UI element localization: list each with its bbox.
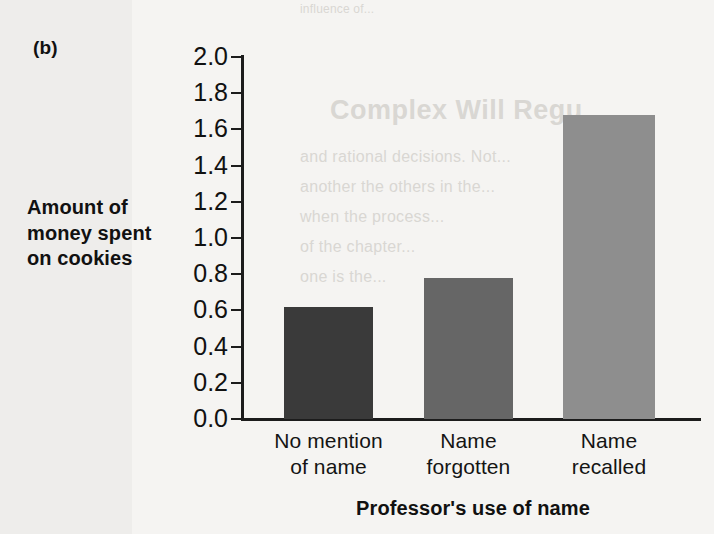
bar-2: [424, 278, 513, 419]
panel-label: (b): [33, 37, 58, 59]
y-tick-label-1.2: 1.2: [168, 189, 228, 214]
y-tick-1.6: [231, 128, 242, 130]
plot-area: [243, 57, 698, 419]
y-tick-0.6: [231, 309, 242, 311]
bar-3: [563, 115, 655, 419]
ghost-top-line: influence of...: [300, 2, 374, 16]
y-tick-0.4: [231, 346, 242, 348]
y-tick-2.0: [231, 56, 242, 58]
x-axis-title: Professor's use of name: [243, 497, 703, 520]
y-tick-label-0.6: 0.6: [168, 297, 228, 322]
y-tick-1.4: [231, 165, 242, 167]
y-tick-label-0.4: 0.4: [168, 334, 228, 359]
category-label-3: Namerecalled: [509, 428, 709, 479]
y-tick-1.8: [231, 92, 242, 94]
bar-1: [284, 307, 373, 419]
y-tick-label-1.6: 1.6: [168, 116, 228, 141]
y-tick-0.2: [231, 382, 242, 384]
y-tick-label-0.0: 0.0: [168, 406, 228, 431]
category-label-3-line-1: Name: [509, 428, 709, 454]
figure-panel-b: influence of... Complex Will Regu and ra…: [0, 0, 714, 534]
y-tick-label-0.8: 0.8: [168, 261, 228, 286]
y-tick-label-1.8: 1.8: [168, 80, 228, 105]
y-tick-0.8: [231, 273, 242, 275]
y-tick-label-1.0: 1.0: [168, 225, 228, 250]
y-tick-1.2: [231, 201, 242, 203]
category-label-3-line-2: recalled: [509, 454, 709, 480]
y-tick-0.0: [231, 418, 242, 420]
y-tick-label-2.0: 2.0: [168, 44, 228, 69]
y-tick-1.0: [231, 237, 242, 239]
y-tick-label-0.2: 0.2: [168, 370, 228, 395]
y-tick-label-1.4: 1.4: [168, 153, 228, 178]
